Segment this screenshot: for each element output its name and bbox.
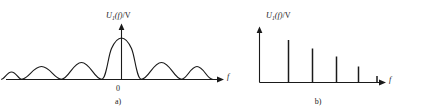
panel-b-ordinate-unit: V xyxy=(285,11,291,20)
spectrum-figure: U1(f)/V 0 f a) U1(f)/V xyxy=(0,0,424,112)
panel-a-origin-label: 0 xyxy=(116,84,120,93)
panel-b-caption: b) xyxy=(315,97,322,106)
panel-a-caption: a) xyxy=(115,97,122,106)
panel-b-ordinate-label: U1(f)/V xyxy=(266,11,291,21)
panel-a-ordinate-unit: V xyxy=(125,11,131,20)
figure-container: U1(f)/V 0 f a) U1(f)/V xyxy=(0,0,424,112)
panel-a-ordinate-label: U1(f)/V xyxy=(106,11,131,21)
figure-background xyxy=(0,0,424,112)
